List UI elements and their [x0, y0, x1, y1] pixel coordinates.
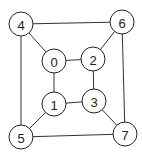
nodes: 01234567: [9, 10, 137, 149]
node-4: 4: [9, 12, 33, 36]
node-label: 2: [89, 53, 96, 68]
edge-6-7: [122, 22, 125, 134]
edge-4-6: [21, 22, 122, 24]
edges: [21, 22, 125, 137]
node-label: 3: [90, 95, 97, 110]
node-5: 5: [9, 125, 33, 149]
node-6: 6: [110, 10, 134, 34]
node-label: 1: [50, 98, 57, 113]
graph-diagram: 01234567: [0, 0, 142, 156]
node-label: 4: [17, 18, 24, 33]
node-label: 5: [17, 131, 24, 146]
node-7: 7: [113, 122, 137, 146]
node-3: 3: [82, 89, 106, 113]
node-label: 6: [118, 16, 125, 31]
node-2: 2: [81, 47, 105, 71]
node-0: 0: [42, 49, 66, 73]
edge-5-7: [21, 134, 125, 137]
node-label: 0: [50, 55, 57, 70]
node-1: 1: [42, 92, 66, 116]
node-label: 7: [121, 128, 128, 143]
